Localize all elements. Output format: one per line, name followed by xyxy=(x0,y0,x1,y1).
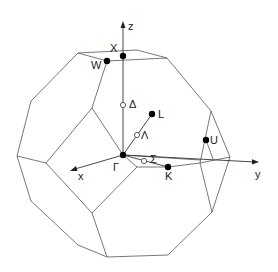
gamma-point xyxy=(120,152,126,158)
z-arrow-icon xyxy=(121,21,126,28)
lambda-label: Λ xyxy=(141,129,149,141)
L-point xyxy=(149,111,155,117)
x-axis-label: x xyxy=(78,170,84,182)
U-point xyxy=(203,137,209,143)
sigma-point xyxy=(141,158,146,163)
K-label: K xyxy=(165,170,173,182)
brillouin-zone-diagram: z y x X W L K U Γ Δ Λ Σ xyxy=(0,0,278,272)
y-axis-label: y xyxy=(255,168,261,180)
z-axis-label: z xyxy=(128,20,134,32)
L-label: L xyxy=(158,108,164,120)
sigma-label: Σ xyxy=(150,153,157,165)
gamma-label: Γ xyxy=(113,161,119,173)
diagram-canvas: z y x X W L K U Γ Δ Λ Σ xyxy=(0,0,278,272)
W-point xyxy=(104,58,110,64)
axes xyxy=(75,26,255,169)
y-arrow-icon xyxy=(252,159,259,164)
delta-point xyxy=(120,102,125,107)
W-label: W xyxy=(91,59,102,71)
x-arrow-icon xyxy=(70,166,78,171)
X-point xyxy=(120,53,126,59)
delta-label: Δ xyxy=(129,98,137,110)
U-label: U xyxy=(210,134,218,146)
X-label: X xyxy=(110,42,118,54)
lambda-point xyxy=(134,132,139,137)
